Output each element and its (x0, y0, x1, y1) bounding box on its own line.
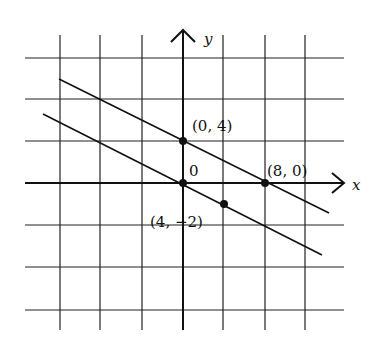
x-axis-label: x (352, 176, 361, 194)
point-label-0-4: (0, 4) (192, 117, 232, 135)
point-0-4 (179, 137, 187, 145)
y-axis-label: y (203, 30, 213, 48)
point-8-0 (261, 179, 269, 187)
point-origin (179, 179, 187, 187)
point-label-4-neg2: (4, −2) (150, 213, 203, 231)
point-4-neg2 (220, 200, 228, 208)
origin-label: 0 (189, 162, 199, 180)
point-label-8-0: (8, 0) (267, 162, 307, 180)
coordinate-plane: y x 0 (0, 4) (8, 0) (4, −2) (0, 0, 384, 352)
